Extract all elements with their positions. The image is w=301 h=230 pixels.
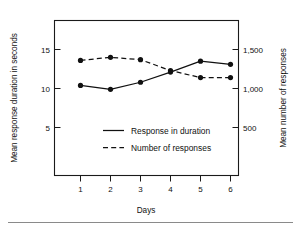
series-solid-markers	[78, 59, 233, 92]
data-point	[108, 55, 113, 60]
x-axis-title: Days	[137, 206, 156, 215]
data-point	[138, 80, 143, 85]
data-point	[78, 83, 83, 88]
data-point	[78, 58, 83, 63]
left-axis-ticks	[55, 50, 61, 128]
right-tick-label-1000: 1,000	[243, 85, 264, 94]
x-tick-label-5: 5	[198, 185, 203, 194]
data-point	[198, 59, 203, 64]
line-chart-svg: 15 10 5 1,500 1,000 500 1 2 3 4 5 6 Mean…	[0, 0, 301, 230]
right-tick-label-500: 500	[243, 124, 257, 133]
series-response-in-duration	[78, 59, 233, 92]
x-tick-label-3: 3	[138, 185, 143, 194]
data-point	[138, 57, 143, 62]
data-point	[228, 62, 233, 67]
left-tick-label-10: 10	[41, 85, 50, 94]
x-axis-ticks	[81, 176, 231, 182]
legend-label-number-of-responses: Number of responses	[131, 143, 211, 153]
x-tick-label-1: 1	[78, 185, 83, 194]
y2-axis-title: Mean number of responses	[279, 48, 288, 148]
left-tick-label-5: 5	[46, 124, 51, 133]
x-tick-label-6: 6	[228, 185, 233, 194]
left-tick-label-15: 15	[41, 46, 50, 55]
chart-figure: 15 10 5 1,500 1,000 500 1 2 3 4 5 6 Mean…	[0, 0, 301, 230]
x-tick-label-4: 4	[168, 185, 173, 194]
x-tick-label-2: 2	[108, 185, 113, 194]
data-point	[228, 75, 233, 80]
series-number-of-responses	[78, 55, 233, 80]
data-point	[198, 75, 203, 80]
legend-label-response-in-duration: Response in duration	[131, 126, 210, 136]
y-axis-title: Mean response duration in seconds	[10, 33, 19, 163]
right-axis-ticks	[233, 50, 239, 128]
right-tick-label-1500: 1,500	[243, 46, 264, 55]
data-point	[168, 68, 173, 73]
chart-legend: Response in duration Number of responses	[103, 126, 211, 153]
data-point	[108, 87, 113, 92]
series-dashed-line	[81, 57, 231, 77]
